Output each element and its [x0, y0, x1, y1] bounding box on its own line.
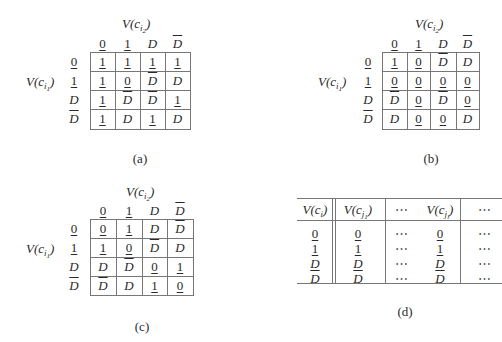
table-cell: D [168, 74, 188, 87]
figure-caption: (b) [416, 152, 446, 165]
row-header: 1 [358, 74, 378, 87]
table-cell: ⋯ [392, 257, 412, 270]
table-cell: 1 [385, 55, 405, 68]
table-cell: D [170, 241, 190, 254]
table-cell: ⋯ [475, 242, 495, 255]
table-cell: 1 [305, 242, 325, 255]
table-cell: D [433, 55, 453, 68]
table-cell: D [145, 222, 165, 235]
table-cell: 0 [409, 74, 429, 87]
table-cell: D [119, 279, 139, 292]
grid-line [167, 219, 168, 295]
column-header: 1 [119, 204, 139, 217]
table-cell: 1 [430, 242, 450, 255]
table-cell: ⋯ [392, 242, 412, 255]
table-cell: D [93, 260, 113, 273]
table-cell: ⋯ [475, 227, 495, 240]
table-cell: ⋯ [392, 272, 412, 285]
table-cell: D [118, 112, 138, 125]
row-variable-label: V(ci1) [26, 75, 54, 93]
table-cell: D [385, 112, 405, 125]
table-cell: D [458, 112, 478, 125]
column-header: D [433, 37, 453, 50]
table-cell: 0 [409, 93, 429, 106]
table-cell: 0 [118, 74, 138, 87]
table-cell: 1 [119, 222, 139, 235]
table-cell: 1 [145, 279, 165, 292]
column-header: 0 [93, 204, 113, 217]
figure-caption: (d) [390, 305, 420, 318]
table-cell: D [119, 260, 139, 273]
row-header: D [64, 112, 84, 125]
row-header: 1 [64, 74, 84, 87]
table-column-rule [385, 198, 386, 283]
table-cell: ⋯ [475, 257, 495, 270]
table-cell: 1 [118, 55, 138, 68]
table-cell: 0 [119, 241, 139, 254]
column-variable-label: V(ci2) [126, 185, 154, 203]
figure-caption: (c) [127, 320, 157, 333]
table-cell: D [93, 279, 113, 292]
column-header: D [168, 37, 188, 50]
column-variable-label: V(ci2) [415, 17, 443, 35]
table-column-rule [460, 198, 461, 283]
table-cell: D [143, 93, 163, 106]
column-header: 1 [409, 37, 429, 50]
table-double-rule [335, 198, 336, 283]
row-header: D [64, 279, 84, 292]
table-cell: 0 [409, 112, 429, 125]
table-cell: D [385, 93, 405, 106]
column-header: 0 [385, 37, 405, 50]
table-header-cell: ⋯ [478, 203, 492, 216]
table-header-rule [297, 220, 502, 221]
table-header-cell: ⋯ [395, 203, 409, 216]
table-cell: D [168, 112, 188, 125]
table-cell: 0 [145, 260, 165, 273]
grid-line [90, 109, 190, 110]
row-header: D [64, 93, 84, 106]
table-double-rule [332, 198, 333, 283]
table-cell: 0 [433, 74, 453, 87]
table-cell: 1 [168, 55, 188, 68]
table-cell: 0 [348, 227, 368, 240]
table-cell: 0 [430, 227, 450, 240]
table-cell: D [430, 257, 450, 270]
table-cell: 1 [93, 112, 113, 125]
column-header: 1 [118, 37, 138, 50]
table-cell: D [348, 272, 368, 285]
column-header: D [145, 204, 165, 217]
column-header: D [170, 204, 190, 217]
table-cell: ⋯ [475, 272, 495, 285]
table-cell: D [170, 222, 190, 235]
column-header: D [458, 37, 478, 50]
figure-caption: (a) [125, 152, 155, 165]
row-header: 1 [64, 241, 84, 254]
table-cell: D [118, 93, 138, 106]
table-cell: ⋯ [392, 227, 412, 240]
table-cell: 1 [93, 93, 113, 106]
table-cell: 0 [93, 222, 113, 235]
table-cell: 0 [458, 93, 478, 106]
table-cell: 1 [93, 74, 113, 87]
table-cell: D [143, 74, 163, 87]
table-cell: 1 [143, 112, 163, 125]
column-header: 0 [93, 37, 113, 50]
table-cell: 1 [93, 55, 113, 68]
table-header-cell: V(cj1) [344, 203, 372, 221]
table-cell: D [430, 272, 450, 285]
column-header: D [143, 37, 163, 50]
table-cell: 1 [93, 241, 113, 254]
row-variable-label: V(ci1) [26, 242, 54, 260]
table-cell: D [305, 272, 325, 285]
table-cell: 0 [458, 74, 478, 87]
grid-line [382, 109, 479, 110]
table-cell: 1 [143, 55, 163, 68]
row-header: D [64, 260, 84, 273]
row-header: 0 [358, 55, 378, 68]
table-cell: 0 [409, 55, 429, 68]
column-variable-label: V(ci2) [122, 17, 150, 35]
table-cell: D [458, 55, 478, 68]
table-cell: D [348, 257, 368, 270]
table-cell: D [305, 257, 325, 270]
table-cell: D [145, 241, 165, 254]
